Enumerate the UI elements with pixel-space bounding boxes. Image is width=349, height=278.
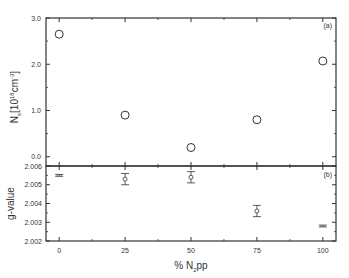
y-tick-label: 2.004 xyxy=(24,200,42,207)
x-tick-label: 0 xyxy=(57,247,61,254)
data-point-a xyxy=(121,111,129,119)
y-tick-label: 2.0 xyxy=(31,61,41,68)
panel-label-a: (a) xyxy=(323,22,332,30)
data-point-b xyxy=(255,209,259,213)
y-tick-label: 2.006 xyxy=(24,163,42,170)
y-axis-title-part: ] xyxy=(9,71,20,74)
data-point-b xyxy=(189,175,193,179)
data-point-b xyxy=(123,177,127,181)
y-axis-title-b: g-value xyxy=(5,187,16,220)
chart: 0.01.02.03.02.0022.0032.0042.0052.006025… xyxy=(0,0,349,278)
y-tick-label: 2.003 xyxy=(24,219,42,226)
y-axis-title-part: cm xyxy=(9,79,20,92)
data-point-a xyxy=(55,30,63,38)
y-axis-title-part: N xyxy=(9,116,20,123)
x-axis-title: % N2pp xyxy=(174,260,208,273)
y-tick-label: 0.0 xyxy=(31,153,41,160)
x-tick-label: 100 xyxy=(317,247,329,254)
y-axis-title-part: [10 xyxy=(9,99,20,113)
data-point-a xyxy=(187,144,195,152)
x-tick-label: 25 xyxy=(121,247,129,254)
data-marks xyxy=(55,30,327,227)
plot-frames xyxy=(46,18,336,241)
y-tick-label: 2.002 xyxy=(24,238,42,245)
panel-label-b: (b) xyxy=(323,171,332,179)
x-axis-title-part: % N xyxy=(174,260,193,271)
y-tick-label: 2.005 xyxy=(24,181,42,188)
data-point-a xyxy=(253,116,261,124)
data-point-a xyxy=(319,57,327,65)
axis-labels: 0.01.02.03.02.0022.0032.0042.0052.006025… xyxy=(5,15,332,274)
y-tick-label: 3.0 xyxy=(31,15,41,22)
x-tick-label: 75 xyxy=(253,247,261,254)
x-tick-label: 50 xyxy=(187,247,195,254)
y-tick-label: 1.0 xyxy=(31,107,41,114)
y-axis-title-a: Ns[1018cm-3] xyxy=(9,71,22,124)
x-axis-title-part: pp xyxy=(197,260,209,271)
